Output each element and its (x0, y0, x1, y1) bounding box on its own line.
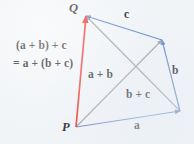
vector-label-b-plus-c: b + c (126, 89, 150, 101)
vector-resultant (76, 16, 86, 127)
vector-label-b: b (172, 65, 179, 77)
vector-label-a-plus-b: a + b (88, 69, 113, 81)
vector-label-c: c (124, 9, 129, 21)
vector-addition-diagram: Q P c b a a + b b + c (a + b) + c = a + … (0, 0, 194, 144)
resultant-label-line1: (a + b) + c (16, 40, 67, 52)
vector-a-plus-b (76, 40, 162, 127)
point-label-q: Q (69, 2, 78, 15)
resultant-label-line2: = a + (b + c) (13, 58, 73, 70)
vector-label-a: a (134, 120, 140, 132)
point-label-p: P (62, 121, 70, 134)
vector-a (76, 111, 180, 127)
